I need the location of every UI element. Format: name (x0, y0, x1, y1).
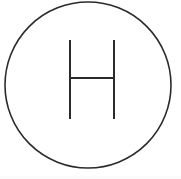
circled-letter-h-logo (0, 0, 181, 179)
logo-circle-outline (5, 2, 171, 168)
logo-canvas: H (0, 0, 181, 179)
letter-h-glyph (70, 40, 114, 119)
bottom-edge-band (0, 176, 181, 179)
